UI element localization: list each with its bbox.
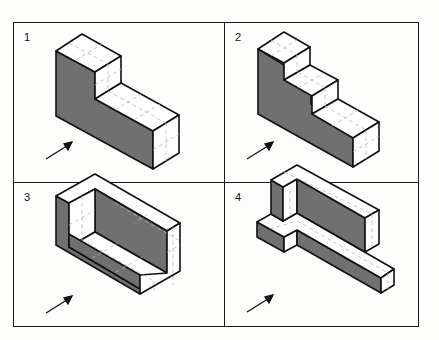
- staircase-block-icon: [225, 23, 420, 182]
- u-channel-block-icon: [14, 183, 219, 328]
- figure-grid: 1: [13, 22, 419, 327]
- arrow-icon: [46, 142, 72, 159]
- arrow-icon: [247, 295, 273, 312]
- panel-3: 3: [14, 183, 219, 333]
- panel-4: 4: [225, 183, 430, 333]
- panel-2: 2: [225, 23, 430, 173]
- panel-1: 1: [14, 23, 219, 173]
- l-block-icon: [14, 23, 219, 182]
- t-base-wall-block-icon: [225, 183, 420, 328]
- arrow-icon: [46, 296, 72, 313]
- arrow-icon: [247, 142, 273, 159]
